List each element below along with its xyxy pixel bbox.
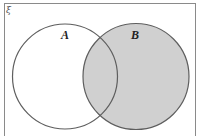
venn-diagram: ξ A B (0, 0, 198, 136)
set-a-label: A (60, 28, 69, 42)
set-b-label: B (130, 28, 139, 42)
